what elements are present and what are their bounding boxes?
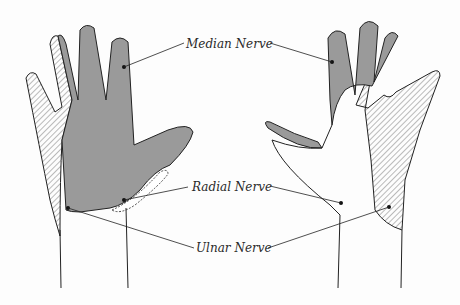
ulnar-nerve-label: Ulnar Nerve (196, 241, 272, 255)
nerve-diagram: Median Nerve Radial Nerve Ulnar Nerve (0, 0, 460, 305)
radial-nerve-label: Radial Nerve (192, 180, 272, 194)
left-hand-palmar (26, 25, 193, 288)
median-nerve-label: Median Nerve (186, 37, 273, 51)
right-hand-outline (272, 125, 340, 288)
left-median-region (58, 25, 193, 212)
right-ulnar-region (356, 71, 440, 230)
right-hand-dorsal (265, 21, 440, 288)
